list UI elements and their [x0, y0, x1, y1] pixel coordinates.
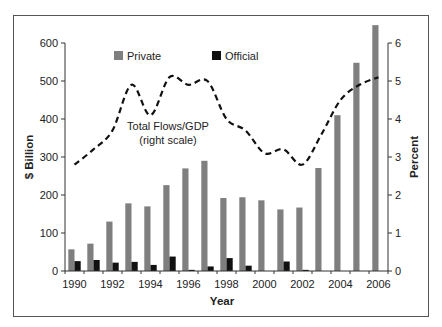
- x-tick-label: 1994: [138, 278, 162, 290]
- y-tick-label: 400: [40, 113, 58, 125]
- annotation-total-flows: Total Flows/GDP: [127, 120, 209, 132]
- bar-private: [220, 198, 226, 271]
- y2-tick-label: 1: [395, 227, 401, 239]
- bar-private: [87, 244, 93, 271]
- chart: 0100200300400500600012345619901992199419…: [0, 0, 442, 327]
- y-tick-label: 600: [40, 37, 58, 49]
- bar-private: [106, 222, 112, 271]
- bar-private: [239, 197, 245, 271]
- bar-official: [246, 266, 252, 271]
- x-tick-label: 2002: [290, 278, 314, 290]
- x-tick-label: 2000: [252, 278, 276, 290]
- x-tick-label: 2004: [328, 278, 352, 290]
- bar-private: [125, 203, 131, 271]
- legend: Private Official: [114, 50, 258, 62]
- x-axis-title: Year: [210, 295, 235, 307]
- x-tick-label: 1996: [176, 278, 200, 290]
- x-tick-label: 2006: [366, 278, 390, 290]
- bar-official: [284, 262, 290, 272]
- legend-label-official: Official: [225, 50, 258, 62]
- y2-tick-label: 2: [395, 189, 401, 201]
- x-tick-label: 1998: [214, 278, 238, 290]
- bar-official: [113, 263, 119, 271]
- bar-private: [68, 249, 74, 271]
- y-tick-label: 200: [40, 189, 58, 201]
- bar-private: [182, 168, 188, 271]
- y-tick-label: 0: [52, 265, 58, 277]
- bar-private: [353, 63, 359, 271]
- legend-label-private: Private: [127, 50, 161, 62]
- y2-tick-label: 3: [395, 151, 401, 163]
- x-tick-label: 1992: [100, 278, 124, 290]
- bar-private: [296, 208, 302, 271]
- y-tick-label: 500: [40, 75, 58, 87]
- y2-axis-title: Percent: [408, 136, 420, 178]
- bar-private: [315, 168, 321, 271]
- total-flows-gdp-line: [75, 76, 379, 165]
- bar-private: [258, 200, 264, 271]
- legend-swatch-official: [212, 51, 221, 60]
- bar-private: [201, 161, 207, 271]
- y2-tick-label: 4: [395, 113, 401, 125]
- x-tick-label: 1990: [62, 278, 86, 290]
- bar-private: [163, 185, 169, 271]
- bar-private: [277, 209, 283, 271]
- bar-official: [170, 257, 176, 271]
- bar-private: [334, 115, 340, 271]
- y-tick-label: 300: [40, 151, 58, 163]
- annotation-right-scale: (right scale): [139, 134, 196, 146]
- bar-official: [75, 261, 81, 271]
- bar-official: [227, 258, 233, 271]
- bar-official: [208, 266, 214, 271]
- legend-swatch-private: [114, 51, 123, 60]
- y2-tick-label: 5: [395, 75, 401, 87]
- y-tick-label: 100: [40, 227, 58, 239]
- bar-official: [132, 262, 138, 271]
- bars-group: [68, 25, 378, 271]
- bar-official: [94, 260, 100, 271]
- y-axis-title: $ Billion: [23, 135, 35, 180]
- bar-private: [372, 25, 378, 271]
- y2-tick-label: 6: [395, 37, 401, 49]
- y2-tick-label: 0: [395, 265, 401, 277]
- bar-private: [144, 206, 150, 271]
- bar-official: [151, 265, 157, 271]
